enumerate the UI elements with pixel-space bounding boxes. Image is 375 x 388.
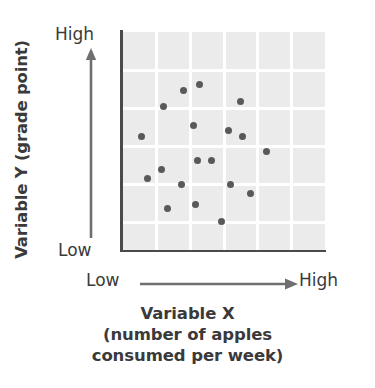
scatter-plot-figure: Variable Y (grade point) High Low <box>0 0 375 388</box>
gridline-horizontal <box>123 145 325 148</box>
x-axis-caption-line-3: consumed per week) <box>0 345 375 366</box>
data-point <box>227 181 234 188</box>
data-point <box>178 181 185 188</box>
data-point <box>263 148 270 155</box>
y-axis-low-label: Low <box>58 240 91 260</box>
data-point <box>190 122 197 129</box>
data-point <box>144 175 151 182</box>
data-point <box>160 103 167 110</box>
data-point <box>247 190 254 197</box>
gridline-horizontal <box>123 107 325 110</box>
data-point <box>239 133 246 140</box>
plot-region <box>120 30 326 252</box>
data-point <box>208 157 215 164</box>
x-axis-caption-line-2: (number of apples <box>0 324 375 345</box>
y-axis-high-label: High <box>55 24 94 44</box>
y-axis-title: Variable Y (grade point) <box>12 25 31 275</box>
data-point <box>180 87 187 94</box>
data-point <box>138 133 145 140</box>
arrow-up-icon <box>84 48 98 238</box>
gridline-vertical <box>256 32 259 250</box>
x-axis-caption: Variable X (number of apples consumed pe… <box>0 303 375 366</box>
y-axis-line <box>120 30 123 252</box>
gridline-vertical <box>290 32 293 250</box>
gridline-horizontal <box>123 183 325 186</box>
gridline-horizontal <box>123 69 325 72</box>
data-point <box>158 166 165 173</box>
data-point <box>196 81 203 88</box>
x-axis-high-label: High <box>299 270 338 290</box>
data-point <box>164 205 171 212</box>
x-axis-caption-line-1: Variable X <box>0 303 375 324</box>
x-axis-line <box>120 250 326 253</box>
gridline-vertical <box>189 32 192 250</box>
gridline-vertical <box>155 32 158 250</box>
data-point <box>192 201 199 208</box>
data-point <box>225 127 232 134</box>
gridline-vertical <box>223 32 226 250</box>
x-axis-low-label: Low <box>86 270 119 290</box>
data-point <box>237 98 244 105</box>
data-point <box>194 157 201 164</box>
arrow-right-icon <box>140 276 298 290</box>
plot-area <box>123 32 325 250</box>
